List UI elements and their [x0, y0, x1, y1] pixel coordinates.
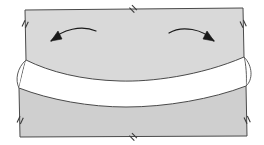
- geometric-diagram-svg: [0, 0, 264, 145]
- diagram-canvas: [0, 0, 264, 145]
